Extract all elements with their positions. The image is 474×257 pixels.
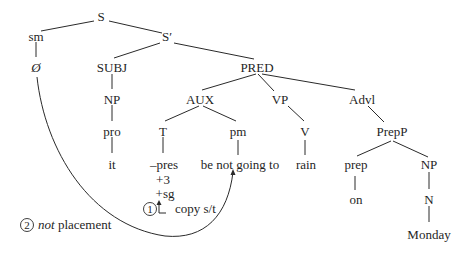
step-1-number: 1 [147,203,153,215]
edge-VP-V [288,106,304,121]
leaf-rain: rain [296,157,317,172]
leaf-be-not-going-to: be not going to [201,157,279,172]
step-2-number: 2 [24,219,30,231]
node-SUBJ: SUBJ [97,60,127,75]
feature-pres: –pres [149,157,178,172]
edge-AUX-T [165,106,199,121]
node-S-prime: S′ [162,29,172,44]
node-VP: VP [272,92,289,107]
edge-Sprime-SUBJ [114,43,160,58]
step-1-label: copy s/t [175,201,216,216]
edge-PrepP-NP [393,141,428,157]
node-N: N [424,192,434,207]
edge-AUX-pm [203,106,236,121]
node-S: S [97,9,104,24]
edge-S-sm [41,21,94,31]
step-2-italic-not: not [38,217,55,232]
annotation-copy-st: 1 copy s/t [144,200,217,216]
feature-plus3: +3 [156,172,170,187]
edge-Sprime-PRED [174,43,254,59]
node-prep: prep [344,157,367,172]
leaf-it: it [108,157,116,172]
leaf-on: on [350,192,364,207]
node-pro: pro [103,124,120,139]
feature-plussg: +sg [156,186,175,201]
edge-PRED-VP [258,74,274,91]
edge-PRED-Advl [262,74,355,90]
node-NP-obj: NP [421,157,438,172]
node-Advl: Advl [349,92,375,107]
node-T: T [159,124,167,139]
node-pm: pm [230,124,247,139]
node-NP-subj: NP [104,92,121,107]
edge-PRED-AUX [202,74,256,90]
edge-PrepP-prep [357,141,391,156]
node-PrepP: PrepP [376,124,407,139]
step-2-placement: placement [55,217,112,232]
tree-edges [36,21,429,222]
edge-Advl-PrepP [368,106,384,122]
node-V: V [300,124,310,139]
leaf-Monday: Monday [407,227,451,242]
node-sm: sm [28,29,43,44]
edge-S-Sprime [109,21,162,33]
node-PRED: PRED [240,60,273,75]
node-null: Ø [30,60,41,75]
syntax-tree-diagram: S sm S′ Ø SUBJ PRED NP AUX VP Advl pro T… [0,0,474,257]
tree-nodes: S sm S′ Ø SUBJ PRED NP AUX VP Advl pro T… [28,9,451,242]
node-AUX: AUX [186,92,215,107]
step-2-label: not placement [38,217,112,232]
